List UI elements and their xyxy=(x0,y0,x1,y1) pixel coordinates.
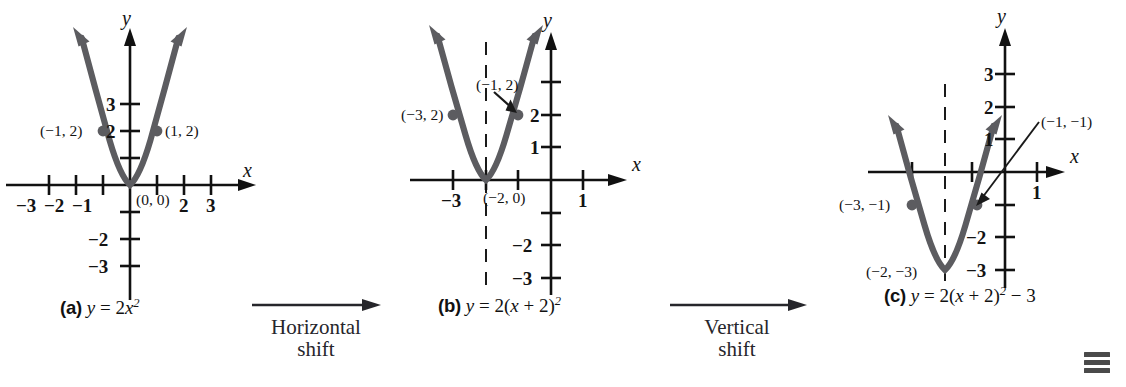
panel-a-curve xyxy=(73,27,187,185)
panel-a-ytick-3: 3 xyxy=(106,95,116,114)
panel-c-x-axis-label: x xyxy=(1070,146,1079,166)
panel-a-graph: x y −3 −2 −1 2 3 3 2 −2 −3 (−1, 2) (1, 2… xyxy=(0,0,380,330)
panel-c-point-label--1--1: (−1, −1) xyxy=(1041,114,1092,130)
panel-b-point-label--1-2: (−1, 2) xyxy=(476,77,518,93)
panel-b-y-axis xyxy=(545,32,557,295)
panel-b-equation: y = 2(x + 2)2 xyxy=(466,295,561,316)
panel-c-x-ticks xyxy=(912,162,1037,182)
panel-c-ytick-2: 2 xyxy=(984,98,994,117)
panel-a-ytick--2: −2 xyxy=(88,230,108,249)
horizontal-shift-arrow-icon xyxy=(250,296,390,316)
panel-a-point-label-0-0: (0, 0) xyxy=(136,192,170,208)
vertical-shift-arrow-icon xyxy=(668,296,818,316)
panel-b-graph: x y −3 1 2 1 −2 −3 (−3, 2) (−1, 2) (−2, … xyxy=(400,0,730,330)
panel-b-point-label--2-0: (−2, 0) xyxy=(483,190,525,206)
panel-c-y-axis xyxy=(999,28,1011,288)
panel-a-xtick--3: −3 xyxy=(16,196,36,215)
three-bars-icon-line xyxy=(1084,368,1110,373)
panel-a-equation: y = 2x2 xyxy=(87,297,140,318)
panel-b-x-ticks xyxy=(453,170,583,190)
panel-b-point-label--3-2: (−3, 2) xyxy=(401,107,443,123)
panel-b-ytick--2: −2 xyxy=(512,236,532,255)
panel-a-xtick--1: −1 xyxy=(72,196,92,215)
panel-c-point-label--2--3: (−2, −3) xyxy=(866,264,917,280)
panel-c-tag: (c) xyxy=(884,285,906,306)
panel-a-ytick-2: 2 xyxy=(106,122,116,141)
panel-c-x-axis xyxy=(868,166,1065,178)
panel-a-xtick-2: 2 xyxy=(179,196,189,215)
panel-a-point-label--1-2: (−1, 2) xyxy=(40,123,82,139)
panel-c-graph: x y 1 3 2 1 −2 −3 (−3, −1) (−1, −1) (−2,… xyxy=(836,0,1126,330)
panel-b-x-axis-label: x xyxy=(632,154,641,174)
panel-a-y-axis-label: y xyxy=(122,8,131,28)
transition-vertical xyxy=(668,296,808,316)
panel-b-ytick-1: 1 xyxy=(530,138,540,157)
transition-horizontal-label: Horizontal shift xyxy=(250,316,382,361)
transition-vertical-label: Vertical shift xyxy=(668,316,806,361)
panel-b-y-axis-label: y xyxy=(543,10,552,30)
panel-c-y-axis-label: y xyxy=(997,6,1006,26)
panel-b-ytick-2: 2 xyxy=(530,106,540,125)
panel-b-tag: (b) xyxy=(438,295,461,316)
panel-a-plot xyxy=(0,0,380,330)
panel-a-x-axis xyxy=(6,179,256,191)
panel-b-ytick--3: −3 xyxy=(512,269,532,288)
panel-a-x-axis-label: x xyxy=(243,160,252,180)
panel-b-caption: (b) y = 2(x + 2)2 xyxy=(438,295,561,316)
panel-a-xtick-3: 3 xyxy=(206,196,216,215)
figure-root: x y −3 −2 −1 2 3 3 2 −2 −3 (−1, 2) (1, 2… xyxy=(0,0,1126,387)
panel-a-point-label-1-2: (1, 2) xyxy=(165,123,199,139)
panel-c-ytick--2: −2 xyxy=(966,228,986,247)
panel-b-curve xyxy=(429,25,543,180)
panel-b-pointer-arrow-icon xyxy=(494,92,517,113)
panel-c-xtick-1: 1 xyxy=(1032,183,1042,202)
panel-b-marked-points xyxy=(448,110,524,121)
panel-c-ytick-1: 1 xyxy=(984,130,994,149)
panel-c-point-label--3--1: (−3, −1) xyxy=(839,197,890,213)
panel-b-x-axis xyxy=(410,174,627,186)
panel-b-plot xyxy=(400,0,730,330)
panel-a-y-axis xyxy=(124,28,136,300)
panel-a-x-ticks xyxy=(49,175,211,195)
panel-b-xtick--3: −3 xyxy=(441,191,461,210)
panel-c-caption: (c) y = 2(x + 2)2 − 3 xyxy=(884,285,1036,306)
panel-a-tag: (a) xyxy=(60,297,82,318)
panel-a-ytick--3: −3 xyxy=(88,257,108,276)
transition-horizontal xyxy=(250,296,390,316)
panel-a-xtick--2: −2 xyxy=(44,196,64,215)
panel-c-marked-points xyxy=(907,200,983,211)
panel-a-caption: (a) y = 2x2 xyxy=(60,297,140,318)
panel-c-y-ticks xyxy=(995,74,1015,270)
three-bars-icon-line xyxy=(1084,360,1110,365)
panel-c-ytick--3: −3 xyxy=(966,261,986,280)
panel-c-equation: y = 2(x + 2)2 − 3 xyxy=(911,285,1036,306)
panel-a-y-ticks xyxy=(120,104,140,266)
panel-b-y-ticks xyxy=(541,82,561,278)
three-bars-icon-line xyxy=(1084,352,1110,357)
panel-b-xtick-1: 1 xyxy=(578,191,588,210)
three-bars-icon xyxy=(1084,352,1110,373)
panel-c-ytick-3: 3 xyxy=(984,65,994,84)
